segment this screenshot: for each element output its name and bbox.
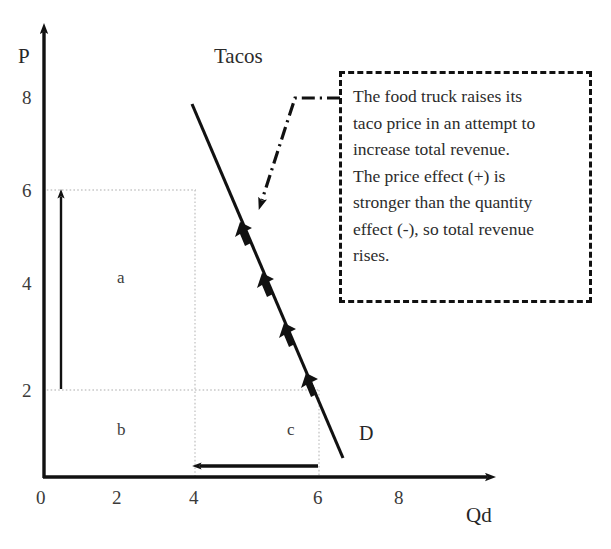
figure-canvas: The food truck raises its taco price in … [0,0,611,549]
chart-title: Tacos [214,46,263,67]
movement-arrowhead [301,373,318,397]
callout-line: increase total revenue. [353,136,591,163]
callout-line: The food truck raises its [353,83,591,110]
callout-line: rises. [353,242,591,269]
y-tick-label-8: 8 [22,88,32,107]
x-tick-label-4: 4 [189,488,199,507]
guideline-group [43,190,320,478]
region-label-b: b [117,421,126,438]
movement-arrowhead [235,222,252,246]
x-tick-label-6: 6 [313,488,323,507]
movement-arrowhead [279,323,296,347]
callout-text: The food truck raises its taco price in … [353,83,591,269]
x-tick-label-2: 2 [112,488,122,507]
region-label-c: c [287,421,295,438]
region-label-a: a [117,269,125,286]
callout-line: stronger than the quantity [353,189,591,216]
demand-curve-label: D [359,423,373,443]
callout-line: taco price in an attempt to [353,110,591,137]
x-axis-label: Qd [466,505,492,526]
callout-line: effect (-), so total revenue [353,216,591,243]
movement-arrowhead [257,273,274,297]
y-axis-label: P [18,46,30,67]
callout-leader-arrow [262,98,340,200]
demand-curve-group[interactable] [192,104,343,458]
y-tick-label-4: 4 [22,274,32,293]
y-tick-label-6: 6 [22,181,32,200]
callout-line: The price effect (+) is [353,163,591,190]
x-tick-label-8: 8 [394,488,404,507]
y-tick-label-2: 2 [22,381,32,400]
x-tick-label-0: 0 [36,488,46,507]
